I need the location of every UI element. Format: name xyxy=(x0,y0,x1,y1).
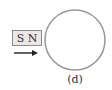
south-pole-label: S xyxy=(17,33,25,44)
motion-arrow-icon xyxy=(13,49,39,57)
bar-magnet: S N xyxy=(12,30,42,46)
figure-label: (d) xyxy=(60,73,90,86)
conducting-loop xyxy=(43,8,107,72)
north-pole-label: N xyxy=(28,33,38,44)
